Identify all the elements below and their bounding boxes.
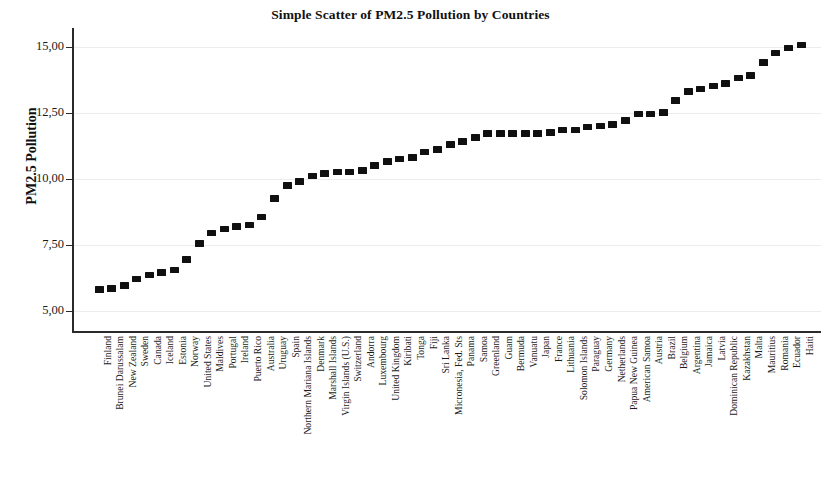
data-point[interactable] <box>107 285 116 292</box>
x-axis-tick-label: Fiji <box>429 336 439 349</box>
data-point[interactable] <box>207 230 216 237</box>
data-point[interactable] <box>195 240 204 247</box>
x-axis-tick-label: Kiribati <box>403 336 413 366</box>
x-axis-tick-label: United Kingdom <box>391 336 401 401</box>
data-point[interactable] <box>370 162 379 169</box>
data-point[interactable] <box>546 129 555 136</box>
x-axis-tick-label: Australia <box>266 336 276 371</box>
data-point[interactable] <box>433 146 442 153</box>
data-point[interactable] <box>483 130 492 137</box>
data-point[interactable] <box>771 50 780 57</box>
x-axis-tick-label: Samoa <box>479 336 489 362</box>
data-point[interactable] <box>232 223 241 230</box>
x-axis-tick-label: United States <box>203 336 213 387</box>
data-point[interactable] <box>120 282 129 289</box>
x-axis-tick-label: Sri Lanka <box>441 336 451 374</box>
data-point[interactable] <box>408 154 417 161</box>
data-point[interactable] <box>383 158 392 165</box>
data-point[interactable] <box>283 182 292 189</box>
x-axis-tick-label: Mauritius <box>767 336 777 373</box>
x-axis-tick-label: France <box>554 336 564 362</box>
x-axis-tick-label: Dominican Republic <box>729 336 739 416</box>
x-axis-tick-label: Uruguay <box>278 336 288 370</box>
data-point[interactable] <box>182 256 191 263</box>
data-point[interactable] <box>395 156 404 163</box>
data-point[interactable] <box>634 111 643 118</box>
x-axis-tick-label: Belgium <box>679 336 689 369</box>
x-axis-tick-label: Panama <box>466 336 476 366</box>
y-axis-tick-label: 10,00 <box>4 171 64 186</box>
data-point[interactable] <box>458 138 467 145</box>
x-axis-tick-label: American Samoa <box>642 336 652 402</box>
data-point[interactable] <box>784 45 793 52</box>
data-point[interactable] <box>270 195 279 202</box>
x-axis-tick-label: Maldives <box>215 336 225 372</box>
data-point[interactable] <box>145 272 154 279</box>
data-point[interactable] <box>345 169 354 176</box>
plot-area <box>72 28 821 332</box>
x-axis-tick-label: Ecuador <box>792 336 802 368</box>
data-point[interactable] <box>295 178 304 185</box>
data-point[interactable] <box>95 286 104 293</box>
data-point[interactable] <box>746 72 755 79</box>
x-axis-tick-label: Switzerland <box>353 336 363 382</box>
x-axis-tick-label: Northern Mariana Islands <box>303 336 313 435</box>
data-point[interactable] <box>320 170 329 177</box>
x-axis-tick-label: Brazil <box>667 336 677 359</box>
x-axis-tick-label: Denmark <box>316 336 326 372</box>
data-point[interactable] <box>696 86 705 93</box>
data-point[interactable] <box>608 121 617 128</box>
x-axis-tick-label: Paraguay <box>591 336 601 372</box>
x-axis-tick-label: Finland <box>103 336 113 365</box>
x-axis-tick-label: Haiti <box>805 336 815 355</box>
data-point[interactable] <box>420 149 429 156</box>
data-point[interactable] <box>646 111 655 118</box>
x-axis-tick-label: Estonia <box>178 336 188 365</box>
data-point[interactable] <box>358 167 367 174</box>
data-point[interactable] <box>734 75 743 82</box>
x-axis-tick-label: Jamaica <box>704 336 714 367</box>
data-point[interactable] <box>659 109 668 116</box>
x-axis-tick-label: Iceland <box>165 336 175 364</box>
data-point[interactable] <box>508 130 517 137</box>
x-axis-tick-label: Argentina <box>692 336 702 374</box>
data-point[interactable] <box>308 173 317 180</box>
data-point[interactable] <box>571 127 580 134</box>
x-axis-tick-label: Micronesia, Fed. Sts <box>454 336 464 415</box>
data-point[interactable] <box>621 117 630 124</box>
data-point[interactable] <box>558 127 567 134</box>
data-point[interactable] <box>170 267 179 274</box>
data-point[interactable] <box>721 80 730 87</box>
data-point[interactable] <box>759 59 768 66</box>
x-axis-tick-label: Norway <box>190 336 200 367</box>
data-point[interactable] <box>671 97 680 104</box>
x-axis-tick-label: Romania <box>780 336 790 371</box>
data-point[interactable] <box>797 42 806 49</box>
data-point[interactable] <box>333 169 342 176</box>
x-axis-tick-label: Kazakhstan <box>742 336 752 381</box>
x-axis-tick-label: Sweden <box>140 336 150 366</box>
x-axis-tick-labels: FinlandBrunei DarussalamNew ZealandSwede… <box>0 334 821 477</box>
data-point[interactable] <box>521 130 530 137</box>
data-point[interactable] <box>533 130 542 137</box>
y-axis-tick-label: 15,00 <box>4 39 64 54</box>
data-point[interactable] <box>496 130 505 137</box>
data-point[interactable] <box>446 141 455 148</box>
x-axis-tick-label: Marshall Islands <box>328 336 338 400</box>
data-point[interactable] <box>596 123 605 130</box>
data-point[interactable] <box>220 226 229 233</box>
data-point[interactable] <box>684 88 693 95</box>
y-axis-tick-label: 5,00 <box>4 303 64 318</box>
data-point[interactable] <box>245 222 254 229</box>
scatter-chart: Simple Scatter of PM2.5 Pollution by Cou… <box>0 0 821 477</box>
x-axis-tick-label: Latvia <box>717 336 727 361</box>
data-point[interactable] <box>471 134 480 141</box>
data-point[interactable] <box>157 269 166 276</box>
x-axis-tick-label: Spain <box>291 336 301 358</box>
y-axis-tick-label: 7,50 <box>4 237 64 252</box>
data-point[interactable] <box>132 276 141 283</box>
data-point[interactable] <box>257 214 266 221</box>
data-point[interactable] <box>583 124 592 131</box>
x-axis-tick-label: Papua New Guinea <box>629 336 639 410</box>
data-point[interactable] <box>709 83 718 90</box>
